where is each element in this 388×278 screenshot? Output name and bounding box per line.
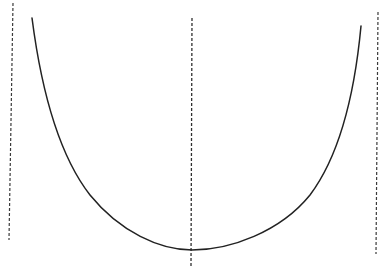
background bbox=[0, 0, 388, 278]
diagram-svg bbox=[0, 0, 388, 278]
diagram-canvas bbox=[0, 0, 388, 278]
